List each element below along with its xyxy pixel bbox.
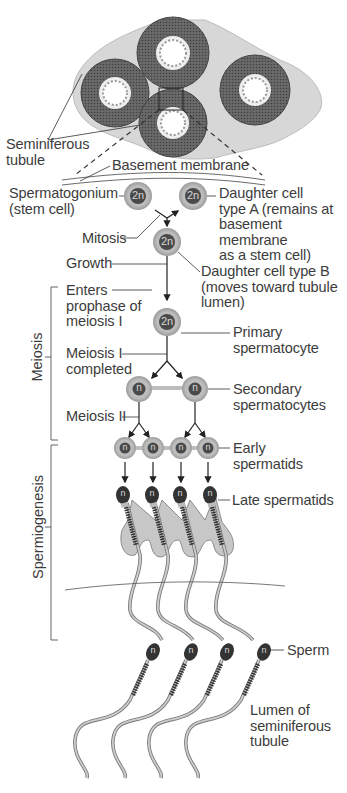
ploidy-sperm-4: n (259, 645, 269, 655)
tubule-right (220, 55, 290, 125)
label-seminiferous-tubule: Seminiferous tubule (6, 137, 89, 168)
meiosis-bracket (51, 287, 58, 440)
spermatogenesis-diagram: Seminiferous tubule Basement membrane Sp… (0, 0, 347, 793)
ploidy-daughter-b: 2n (159, 235, 175, 247)
label-spermiogenesis-bracket: Spermiogenesis (30, 467, 46, 587)
label-meiosis-i-completed: Meiosis I completed (66, 346, 132, 377)
label-secondary-spermatocytes: Secondary spermatocytes (233, 382, 326, 413)
label-lumen: Lumen of seminiferous tubule (250, 703, 331, 750)
label-growth: Growth (66, 256, 112, 272)
label-spermatogonium: Spermatogonium (stem cell) (9, 186, 118, 217)
spermiogenesis-bracket (51, 445, 58, 640)
ploidy-primary-spermatocyte: 2n (159, 315, 175, 327)
label-daughter-b: Daughter cell type B (moves toward tubul… (201, 264, 338, 311)
label-meiosis-bracket: Meiosis (29, 327, 45, 387)
label-basement-membrane: Basement membrane (112, 158, 249, 174)
tubule-bottom (139, 89, 207, 157)
label-meiosis-ii: Meiosis II (66, 409, 126, 425)
label-late-spermatids: Late spermatids (232, 493, 334, 509)
tubule-cross-section (73, 17, 322, 159)
tubule-left (81, 59, 149, 127)
ploidy-early-spermatid-2: n (148, 442, 158, 452)
label-sperm: Sperm (287, 643, 329, 659)
label-early-spermatids: Early spermatids (233, 441, 303, 472)
ploidy-secondary-right: n (189, 382, 201, 393)
ploidy-late-spermatid-1: n (118, 488, 128, 498)
tubule-top (137, 17, 209, 89)
ploidy-spermatogonium: 2n (130, 189, 146, 201)
ploidy-sperm-1: n (148, 645, 158, 655)
ploidy-late-spermatid-4: n (205, 488, 215, 498)
ploidy-early-spermatid-3: n (176, 442, 186, 452)
label-mitosis: Mitosis (82, 231, 126, 247)
ploidy-daughter-a: 2n (185, 189, 201, 201)
sperm-1 (75, 641, 163, 778)
ploidy-late-spermatid-2: n (147, 488, 157, 498)
ploidy-early-spermatid-4: n (203, 442, 213, 452)
ploidy-early-spermatid-1: n (120, 442, 130, 452)
label-primary-spermatocyte: Primary spermatocyte (233, 325, 319, 356)
label-daughter-a: Daughter cell type A (remains at basemen… (219, 186, 333, 264)
ploidy-late-spermatid-3: n (175, 488, 185, 498)
ploidy-sperm-3: n (222, 645, 232, 655)
label-enters-prophase: Enters prophase of meiosis I (66, 283, 142, 330)
ploidy-secondary-left: n (133, 382, 145, 393)
ploidy-sperm-2: n (186, 645, 196, 655)
